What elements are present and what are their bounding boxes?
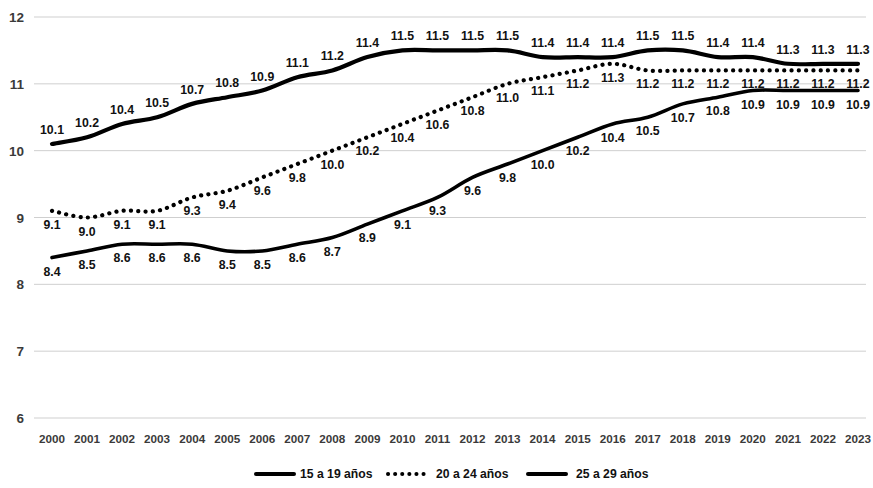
y-axis-label: 6 xyxy=(16,411,24,426)
series-line-3 xyxy=(52,90,858,258)
legend-label-1: 15 a 19 años xyxy=(300,467,373,481)
x-axis-label: 2021 xyxy=(775,432,802,445)
y-axis-label: 8 xyxy=(16,277,24,292)
chart-legend: 15 a 19 años20 a 24 años25 a 29 años xyxy=(256,467,649,481)
x-axis-label: 2019 xyxy=(705,432,732,445)
data-point-labels: 10.110.210.410.510.710.810.911.111.211.4… xyxy=(40,29,870,278)
series-line-2 xyxy=(52,64,858,218)
data-label: 10.1 xyxy=(40,123,64,137)
data-label: 11.4 xyxy=(741,36,764,50)
x-axis-label: 2011 xyxy=(425,432,451,445)
data-label: 8.4 xyxy=(43,265,60,279)
data-label: 10.8 xyxy=(461,104,485,118)
x-axis-label: 2014 xyxy=(530,432,557,445)
data-label: 11.1 xyxy=(531,84,554,98)
data-label: 11.2 xyxy=(741,77,764,91)
data-label: 10.2 xyxy=(566,144,590,158)
data-label: 10.6 xyxy=(426,118,450,132)
x-axis-label: 2020 xyxy=(740,432,767,445)
series-lines xyxy=(52,50,858,258)
data-label: 10.4 xyxy=(601,131,625,145)
data-label: 11.2 xyxy=(321,49,344,63)
data-label: 9.3 xyxy=(184,204,201,218)
legend-label-3: 25 a 29 años xyxy=(576,467,649,481)
data-label: 9.1 xyxy=(394,218,411,232)
data-label: 10.9 xyxy=(811,98,835,112)
data-label: 10.2 xyxy=(75,116,99,130)
data-label: 11.5 xyxy=(391,29,414,43)
data-label: 10.9 xyxy=(741,98,765,112)
x-axis-label: 2003 xyxy=(144,432,171,445)
data-label: 10.8 xyxy=(706,104,730,118)
data-label: 11.5 xyxy=(426,29,449,43)
data-label: 8.5 xyxy=(254,258,271,272)
x-axis-label: 2004 xyxy=(179,432,206,445)
x-axis-tick-labels: 2000200120022003200420052006200720082009… xyxy=(39,432,872,445)
data-label: 9.0 xyxy=(78,225,95,239)
data-label: 9.8 xyxy=(289,171,306,185)
x-axis-label: 2013 xyxy=(495,432,522,445)
x-axis-label: 2022 xyxy=(810,432,837,445)
x-axis-label: 2000 xyxy=(39,432,66,445)
x-axis-label: 2023 xyxy=(845,432,872,445)
data-label: 9.4 xyxy=(219,198,236,212)
chart-canvas: 6789101112 20002001200220032004200520062… xyxy=(0,0,873,488)
y-axis-label: 10 xyxy=(9,144,24,159)
data-label: 10.9 xyxy=(846,98,870,112)
data-label: 11.4 xyxy=(706,36,729,50)
data-label: 11.5 xyxy=(461,29,484,43)
data-label: 11.3 xyxy=(601,71,624,85)
data-label: 9.3 xyxy=(429,204,446,218)
data-label: 11.2 xyxy=(811,77,834,91)
data-label: 8.9 xyxy=(359,231,376,245)
data-label: 11.5 xyxy=(671,29,694,43)
data-label: 11.2 xyxy=(706,77,729,91)
x-axis-label: 2005 xyxy=(214,432,241,445)
data-label: 11.4 xyxy=(566,36,589,50)
y-axis-label: 12 xyxy=(9,10,24,25)
data-label: 11.1 xyxy=(286,56,309,70)
data-label: 11.2 xyxy=(846,77,869,91)
data-label: 10.5 xyxy=(636,124,660,138)
data-label: 8.6 xyxy=(149,251,166,265)
data-label: 11.4 xyxy=(531,36,554,50)
data-label: 9.6 xyxy=(254,184,271,198)
data-label: 11.0 xyxy=(496,91,519,105)
line-chart: 6789101112 20002001200220032004200520062… xyxy=(0,0,873,488)
data-label: 9.1 xyxy=(149,218,166,232)
data-label: 10.5 xyxy=(145,96,169,110)
data-label: 10.7 xyxy=(180,83,204,97)
data-label: 8.6 xyxy=(184,251,201,265)
data-label: 9.8 xyxy=(499,171,516,185)
x-axis-label: 2008 xyxy=(319,432,346,445)
data-label: 11.2 xyxy=(636,77,659,91)
data-label: 11.4 xyxy=(356,36,379,50)
data-label: 10.4 xyxy=(110,103,134,117)
x-axis-label: 2002 xyxy=(109,432,136,445)
data-label: 11.2 xyxy=(776,77,799,91)
x-axis-label: 2007 xyxy=(284,432,310,445)
data-label: 10.4 xyxy=(390,131,414,145)
x-axis-label: 2017 xyxy=(635,432,661,445)
data-label: 9.6 xyxy=(464,184,481,198)
data-label: 10.9 xyxy=(776,98,800,112)
x-axis-label: 2015 xyxy=(565,432,592,445)
data-label: 10.0 xyxy=(531,158,555,172)
data-label: 9.1 xyxy=(43,218,60,232)
x-axis-label: 2001 xyxy=(74,432,101,445)
data-label: 9.1 xyxy=(114,218,131,232)
data-label: 11.5 xyxy=(636,29,659,43)
data-label: 10.7 xyxy=(671,111,695,125)
x-axis-label: 2009 xyxy=(354,432,381,445)
data-label: 10.9 xyxy=(250,70,274,84)
legend-label-2: 20 a 24 años xyxy=(436,467,509,481)
x-axis-label: 2006 xyxy=(249,432,276,445)
y-axis-label: 7 xyxy=(16,344,24,359)
data-label: 8.7 xyxy=(324,245,341,259)
data-label: 10.0 xyxy=(320,158,344,172)
y-axis-label: 9 xyxy=(16,211,24,226)
data-label: 11.2 xyxy=(566,77,589,91)
x-axis-label: 2016 xyxy=(600,432,627,445)
series-line-1 xyxy=(52,50,858,144)
data-label: 10.8 xyxy=(215,76,239,90)
